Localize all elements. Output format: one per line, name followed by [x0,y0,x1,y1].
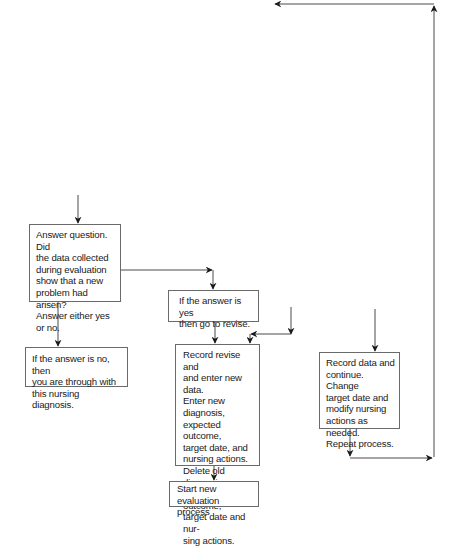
question-box: Answer question. Did the data collected … [29,224,121,302]
continue-box: Record data and continue. Change target … [319,352,400,429]
answer-yes-box: If the answer is yes then go to revise. [168,290,259,322]
flowchart-canvas: Answer question. Did the data collected … [0,0,456,557]
start-new-evaluation-box: Start new evaluation process [169,481,259,507]
revise-box: Record revise and and enter new data. En… [175,344,260,466]
answer-no-box: If the answer is no, then you are throug… [25,347,128,387]
